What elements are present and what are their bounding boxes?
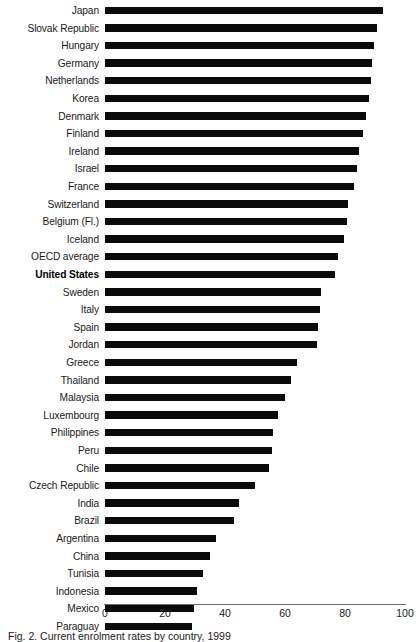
bar-row: Japan (0, 5, 416, 23)
bar (105, 130, 363, 138)
bar (105, 359, 297, 367)
bar-row: France (0, 181, 416, 199)
bar-category-label: Belgium (Fl.) (0, 216, 99, 227)
bar-category-label: Tunisia (0, 568, 99, 579)
bar-category-label: Slovak Republic (0, 23, 99, 34)
bar (105, 183, 354, 191)
bar-category-label: Korea (0, 93, 99, 104)
bar-category-label: France (0, 181, 99, 192)
bar-track (105, 77, 410, 85)
bar (105, 147, 359, 155)
bar-category-label: Iceland (0, 234, 99, 245)
x-tick-label: 80 (325, 607, 365, 620)
bar-track (105, 447, 410, 455)
bar-category-label: Hungary (0, 40, 99, 51)
bar-category-label: Japan (0, 5, 99, 16)
bar (105, 499, 239, 507)
bar (105, 253, 338, 261)
x-tick-label: 100 (385, 607, 416, 620)
bar-track (105, 552, 410, 560)
bar-track (105, 288, 410, 296)
bar-category-label: Italy (0, 304, 99, 315)
bar (105, 77, 371, 85)
x-tick-label: 40 (205, 607, 245, 620)
bar-track (105, 570, 410, 578)
bar-category-label: Ireland (0, 146, 99, 157)
bar-row: Brazil (0, 515, 416, 533)
bar-track (105, 464, 410, 472)
bar-track (105, 112, 410, 120)
bar-category-label: Indonesia (0, 586, 99, 597)
bar-row: Tunisia (0, 568, 416, 586)
bar (105, 271, 335, 279)
bar-track (105, 499, 410, 507)
bar-row: OECD average (0, 251, 416, 269)
bar-category-label: Switzerland (0, 199, 99, 210)
bar-track (105, 482, 410, 490)
bar (105, 447, 272, 455)
bar-row: Slovak Republic (0, 23, 416, 41)
bar-category-label: Peru (0, 445, 99, 456)
bar-row: Peru (0, 445, 416, 463)
bar-row: Luxembourg (0, 410, 416, 428)
bar-category-label: Argentina (0, 533, 99, 544)
bar (105, 235, 344, 243)
bar-row: Korea (0, 93, 416, 111)
bar-track (105, 411, 410, 419)
bar (105, 411, 278, 419)
bar-row: Iceland (0, 234, 416, 252)
bar-track (105, 200, 410, 208)
bar (105, 288, 321, 296)
bar-category-label: OECD average (0, 251, 99, 262)
bar-category-label: Thailand (0, 375, 99, 386)
bar (105, 112, 366, 120)
x-tick-label: 60 (265, 607, 305, 620)
bar (105, 394, 285, 402)
bar-row: Thailand (0, 375, 416, 393)
bar-row: Malaysia (0, 392, 416, 410)
bar-row: Netherlands (0, 75, 416, 93)
bar (105, 341, 317, 349)
bar-category-label: Finland (0, 128, 99, 139)
bar-track (105, 271, 410, 279)
bar-row: Chile (0, 463, 416, 481)
bar-category-label: Brazil (0, 515, 99, 526)
figure-caption: Fig. 2. Current enrolment rates by count… (8, 630, 412, 642)
bar-row: Sweden (0, 287, 416, 305)
bar-row: Spain (0, 322, 416, 340)
bar (105, 623, 192, 631)
bar-track (105, 253, 410, 261)
bar (105, 570, 203, 578)
bar-track (105, 535, 410, 543)
bar-track (105, 517, 410, 525)
bar-track (105, 7, 410, 15)
bar-category-label: Germany (0, 58, 99, 69)
bar (105, 464, 269, 472)
x-tick-label: 0 (85, 607, 125, 620)
bar-track (105, 59, 410, 67)
plot-area: JapanSlovak RepublicHungaryGermanyNether… (0, 0, 416, 612)
bar (105, 7, 383, 15)
bar-track (105, 323, 410, 331)
bar-row: Argentina (0, 533, 416, 551)
bar-category-label: Sweden (0, 287, 99, 298)
bar-category-label: Chile (0, 463, 99, 474)
bar-track (105, 95, 410, 103)
bar-row: Philippines (0, 427, 416, 445)
bar-category-label: Denmark (0, 111, 99, 122)
bar-row: United States (0, 269, 416, 287)
bar-track (105, 218, 410, 226)
bar-category-label: Philippines (0, 427, 99, 438)
bar (105, 552, 210, 560)
bar (105, 535, 216, 543)
bar-track (105, 42, 410, 50)
bar-track (105, 587, 410, 595)
bar-track (105, 165, 410, 173)
bar (105, 24, 377, 32)
bar-row: Finland (0, 128, 416, 146)
bar (105, 482, 255, 490)
bar (105, 429, 273, 437)
bar (105, 323, 318, 331)
bar (105, 165, 357, 173)
